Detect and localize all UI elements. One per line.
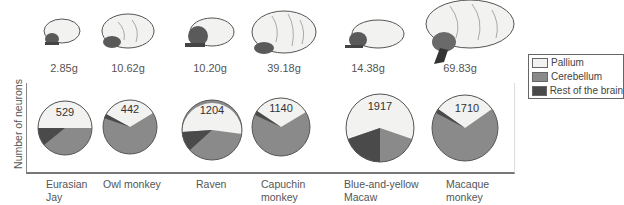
species-label-capuchin: Capuchin monkey [261,178,305,204]
species-label-macaw: Blue-and-yellow Macaw [344,178,419,204]
legend-item-cerebellum: Cerebellum [529,70,623,83]
cerebellum-swatch-icon [532,72,548,82]
neuron-count-capuchin: 1140 [269,102,293,114]
legend: Pallium Cerebellum Rest of the brain [528,54,624,99]
pie-macaw: 1917 [346,94,414,162]
neuron-count-macaw: 1917 [368,100,392,112]
neuron-count-raven: 1204 [200,104,224,116]
species-label-macaque: Macaque monkey [446,178,489,204]
rest-swatch-icon [532,86,547,96]
neuron-count-macaque: 1710 [455,102,479,114]
pie-macaque: 1710 [432,95,498,161]
legend-item-rest: Rest of the brain [529,84,623,97]
neuron-count-eurasian-jay: 529 [56,106,74,118]
species-label-eurasian-jay: Eurasian Jay [46,178,87,204]
pie-eurasian-jay: 529 [38,101,92,155]
species-label-raven: Raven [196,178,226,191]
neuron-count-owl-monkey: 442 [121,103,139,115]
pie-capuchin: 1140 [252,98,310,156]
legend-item-pallium: Pallium [529,56,623,69]
pie-raven: 1204 [182,100,242,160]
species-label-owl-monkey: Owl monkey [103,178,161,191]
pie-owl-monkey: 442 [103,100,157,154]
pallium-swatch-icon [532,58,548,68]
